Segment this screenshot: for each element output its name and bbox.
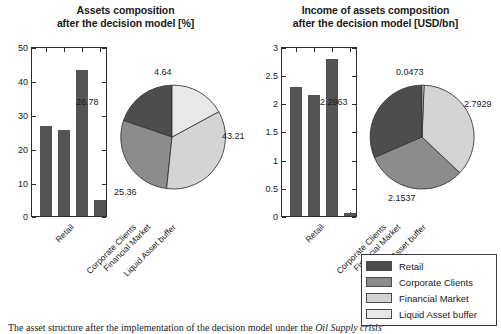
- y-tickmark-0p5: [282, 189, 286, 190]
- pie-chart-left: 26.78 25.36 43.21 4.64: [118, 83, 226, 191]
- x-axis-label-retail: Retail: [303, 222, 325, 244]
- y-tickmark-10: [32, 184, 36, 185]
- y-tick-label-zero: 0: [273, 212, 278, 222]
- y-tick-label-3: 3: [273, 43, 278, 53]
- panel-assets-composition: Assets composition after the decision mo…: [0, 0, 251, 300]
- x-tickmark-3-top: [82, 48, 83, 52]
- y-tick-label-2p5: 2.5: [265, 71, 278, 81]
- x-tickmark-3-top: [332, 48, 333, 52]
- pie-label-corporate-clients: 2.1537: [388, 193, 416, 203]
- y-tick-label-30: 30: [18, 111, 28, 121]
- chart-title-right: Income of assets composition after the d…: [250, 4, 501, 30]
- y-tickmark-10-right: [102, 184, 106, 185]
- chart-title-left-line2: after the decision model [%]: [0, 17, 251, 30]
- y-tick-label-1: 1: [273, 156, 278, 166]
- figure-assets-composition: Assets composition after the decision mo…: [0, 0, 501, 334]
- pie-label-retail: 26.78: [76, 97, 99, 107]
- y-tickmark-0-right: [102, 217, 106, 218]
- legend-swatch-corporate-clients: [366, 277, 392, 287]
- x-tickmark-1-top: [46, 48, 47, 52]
- y-tick-label-0p5: 0.5: [265, 184, 278, 194]
- figure-caption: The asset structure after the implementa…: [8, 322, 495, 334]
- y-tickmark-20: [32, 150, 36, 151]
- pie-label-corporate-clients: 25.36: [114, 187, 137, 197]
- y-tick-label-20: 20: [18, 145, 28, 155]
- chart-title-left-line1: Assets composition: [77, 4, 175, 16]
- figure-caption-emphasis: Oil Supply crisis: [315, 322, 382, 333]
- bar-financial-market: [76, 70, 88, 216]
- pie-label-liquid-asset-buffer: 0.0473: [396, 67, 424, 77]
- y-tick-label-40: 40: [18, 77, 28, 87]
- x-tickmark-1-top: [296, 48, 297, 52]
- y-tickmark-2: [282, 104, 286, 105]
- legend-item-financial-market: Financial Market: [366, 290, 492, 306]
- legend-swatch-retail: [366, 261, 392, 271]
- y-tickmark-zero-right: [352, 217, 356, 218]
- y-tickmark-30-right: [102, 116, 106, 117]
- legend-item-retail: Retail: [366, 258, 492, 274]
- y-tickmark-3: [282, 48, 286, 49]
- y-tickmark-1p5: [282, 132, 286, 133]
- y-tickmark-0p5-right: [352, 189, 356, 190]
- y-tickmark-3-right: [352, 48, 356, 49]
- x-axis-label-retail: Retail: [53, 222, 75, 244]
- x-tickmark-4-top: [100, 48, 101, 52]
- chart-legend: Retail Corporate Clients Financial Marke…: [361, 254, 497, 326]
- bar-financial-market: [326, 59, 338, 216]
- y-tickmark-0: [32, 217, 36, 218]
- y-tickmark-50: [32, 48, 36, 49]
- legend-label-financial-market: Financial Market: [399, 293, 469, 304]
- y-tickmark-zero: [282, 217, 286, 218]
- pie-chart-right-graphic: [368, 83, 476, 191]
- legend-item-corporate-clients: Corporate Clients: [366, 274, 492, 290]
- y-tick-label-0: 0: [23, 212, 28, 222]
- bar-chart-left-plot-area: 50 40 30 20 10 0: [32, 48, 106, 216]
- legend-item-liquid-asset-buffer: Liquid Asset buffer: [366, 306, 492, 322]
- x-tickmark-2-top: [64, 48, 65, 52]
- y-tickmark-2-right: [352, 104, 356, 105]
- bar-chart-right-plot-area: 3 2.5 2 1.5 1 0.5 0: [282, 48, 356, 216]
- pie-label-retail: 2.2963: [320, 97, 348, 107]
- y-tickmark-2p5-right: [352, 76, 356, 77]
- pie-label-financial-market: 43.21: [222, 131, 245, 141]
- bar-retail: [40, 126, 52, 217]
- bar-corporate-clients: [308, 95, 320, 216]
- bar-retail: [290, 87, 302, 216]
- figure-caption-text: The asset structure after the implementa…: [8, 322, 315, 333]
- legend-label-retail: Retail: [399, 261, 423, 272]
- legend-swatch-financial-market: [366, 293, 392, 303]
- bar-liquid-asset-buffer: [344, 213, 356, 216]
- pie-label-liquid-asset-buffer: 4.64: [154, 67, 172, 77]
- y-tickmark-30: [32, 116, 36, 117]
- y-tick-label-1p5: 1.5: [265, 127, 278, 137]
- y-tick-label-2: 2: [273, 99, 278, 109]
- bar-corporate-clients: [58, 130, 70, 216]
- y-tickmark-50-right: [102, 48, 106, 49]
- chart-title-right-line2: after the decision model [USD/bn]: [250, 17, 501, 30]
- y-tickmark-40: [32, 82, 36, 83]
- pie-chart-right: 2.2963 2.1537 2.7929 0.0473: [368, 83, 476, 191]
- bar-liquid-asset-buffer: [94, 200, 106, 216]
- x-tickmark-4-top: [350, 48, 351, 52]
- pie-chart-left-graphic: [118, 83, 226, 191]
- x-tickmark-2-top: [314, 48, 315, 52]
- y-tickmark-20-right: [102, 150, 106, 151]
- y-tick-label-50: 50: [18, 43, 28, 53]
- bar-chart-right-axes: 3 2.5 2 1.5 1 0.5 0: [281, 47, 357, 217]
- y-tickmark-40-right: [102, 82, 106, 83]
- bar-chart-left-axes: 50 40 30 20 10 0: [31, 47, 107, 217]
- legend-label-corporate-clients: Corporate Clients: [399, 277, 473, 288]
- y-tickmark-1-right: [352, 161, 356, 162]
- legend-label-liquid-asset-buffer: Liquid Asset buffer: [399, 309, 477, 320]
- y-tickmark-1: [282, 161, 286, 162]
- chart-title-left: Assets composition after the decision mo…: [0, 4, 251, 30]
- y-tick-label-10: 10: [18, 179, 28, 189]
- legend-swatch-liquid-asset-buffer: [366, 309, 392, 319]
- chart-title-right-line1: Income of assets composition: [302, 4, 450, 16]
- pie-label-financial-market: 2.7929: [464, 99, 492, 109]
- y-tickmark-2p5: [282, 76, 286, 77]
- y-tickmark-1p5-right: [352, 132, 356, 133]
